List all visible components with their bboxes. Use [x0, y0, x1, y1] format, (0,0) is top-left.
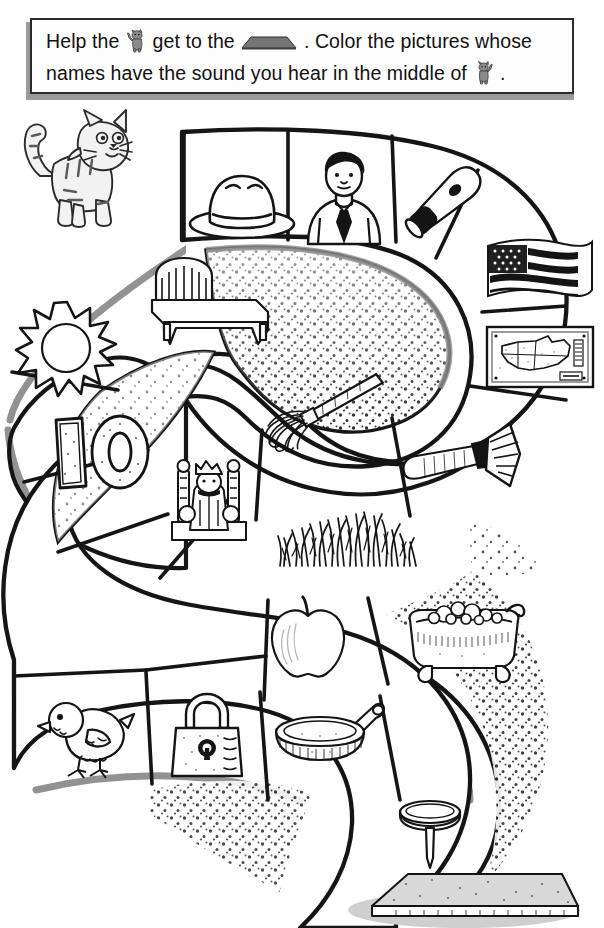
cell-flag[interactable]: flag [484, 232, 596, 308]
cell-map[interactable]: map [484, 324, 596, 390]
cell-mop[interactable]: mop [256, 378, 392, 442]
cell-axe[interactable]: axe [398, 420, 524, 510]
worksheet-page: Help the get t [0, 0, 604, 928]
cell-man[interactable]: man [298, 148, 390, 246]
goal-mat-figure [336, 862, 586, 928]
cell-apple[interactable]: apple [262, 596, 354, 682]
instruction-seg-3: . Color the pictures whose [304, 30, 532, 52]
cell-bat[interactable]: bat [394, 152, 498, 250]
cat-icon-2 [472, 61, 494, 92]
cell-bathtub[interactable]: bathtub [400, 598, 530, 684]
instruction-banner: Help the get t [30, 18, 574, 94]
instruction-seg-1: Help the [46, 30, 119, 52]
cell-nail[interactable]: nail [388, 796, 472, 872]
cell-sun[interactable]: sun [14, 298, 120, 402]
instruction-seg-2: get to the [153, 30, 235, 52]
cat-icon [125, 29, 147, 60]
instruction-text: Help the get t [46, 28, 562, 92]
cell-grass[interactable]: grass [272, 498, 422, 570]
instruction-seg-4: names have the sound you hear in the mid… [46, 62, 467, 84]
cell-lock[interactable]: lock [162, 690, 252, 786]
cell-chick[interactable]: chick [36, 690, 140, 782]
mat-icon [240, 30, 298, 57]
cell-pan[interactable]: pan [272, 700, 392, 772]
start-cat-figure [10, 108, 130, 230]
cell-hat[interactable]: hat [186, 166, 298, 244]
cell-king[interactable]: king [162, 452, 256, 544]
instruction-seg-5: . [500, 62, 506, 84]
cell-bed[interactable]: bed [142, 256, 274, 348]
cell-ten[interactable]: ten [48, 412, 156, 494]
